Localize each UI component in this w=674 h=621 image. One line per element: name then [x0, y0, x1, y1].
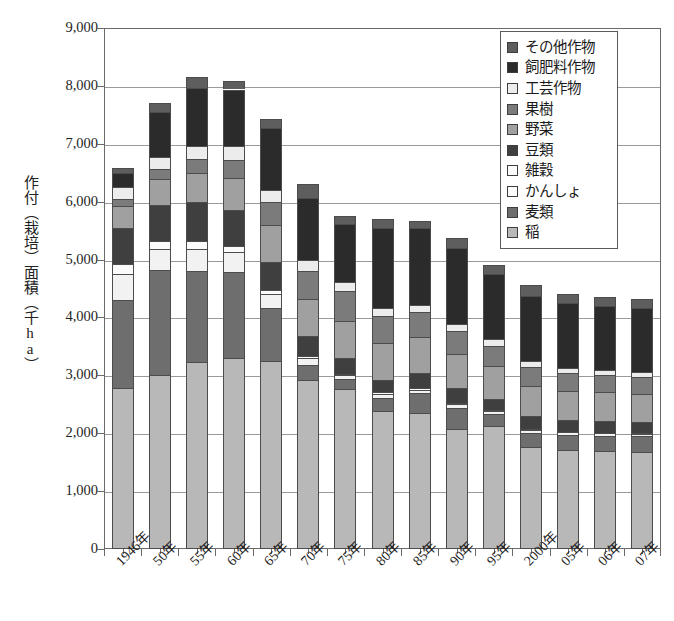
- legend-item: 稲: [507, 222, 613, 243]
- bar-segment-工芸作物: [446, 324, 468, 332]
- legend-swatch-icon: [507, 104, 518, 115]
- bar-segment-その他作物: [557, 294, 579, 303]
- bar-segment-豆類: [149, 205, 171, 240]
- y-axis-tick-label: 4,000: [36, 309, 98, 324]
- bar-segment-果樹: [297, 271, 319, 300]
- bar-segment-その他作物: [409, 221, 431, 227]
- bar-segment-飼肥料作物: [446, 248, 468, 323]
- bar-segment-麦類: [409, 393, 431, 413]
- bar-segment-雑穀: [297, 356, 319, 358]
- bar-segment-果樹: [334, 291, 356, 320]
- legend-swatch-icon: [507, 42, 518, 53]
- bar-segment-麦類: [631, 436, 653, 452]
- y-axis-tick-mark: [97, 375, 104, 376]
- y-axis-tick-label: 0: [36, 541, 98, 556]
- bar-segment-飼肥料作物: [149, 112, 171, 157]
- bar-segment-野菜: [186, 173, 208, 203]
- bar-segment-その他作物: [297, 184, 319, 198]
- bar-95年: [483, 265, 505, 549]
- legend-item-label: 果樹: [525, 102, 553, 117]
- bar-segment-飼肥料作物: [557, 303, 579, 368]
- bar-segment-工芸作物: [520, 361, 542, 367]
- bar-segment-その他作物: [446, 238, 468, 248]
- bar-80年: [372, 219, 394, 549]
- bar-segment-飼肥料作物: [186, 88, 208, 146]
- legend-swatch-icon: [507, 83, 518, 94]
- bar-segment-麦類: [112, 300, 134, 389]
- legend-swatch-icon: [507, 145, 518, 156]
- bar-segment-麦類: [149, 270, 171, 374]
- bar-segment-その他作物: [223, 81, 245, 89]
- bar-1946年: [112, 168, 134, 549]
- bar-segment-かんしょ: [446, 404, 468, 408]
- bar-05年: [557, 294, 579, 549]
- bar-segment-飼肥料作物: [631, 308, 653, 372]
- bar-segment-雑穀: [409, 388, 431, 389]
- bar-segment-豆類: [446, 388, 468, 404]
- bar-segment-麦類: [334, 379, 356, 389]
- bar-segment-工芸作物: [409, 305, 431, 313]
- bar-segment-工芸作物: [483, 339, 505, 346]
- y-axis-tick-mark: [97, 28, 104, 29]
- y-axis-tick-mark: [97, 433, 104, 434]
- x-axis-tick-labels: 1946年50年55年60年65年70年75年80年85年90年95年2000年…: [104, 558, 674, 620]
- bar-segment-豆類: [557, 420, 579, 432]
- bar-segment-麦類: [297, 365, 319, 379]
- bar-segment-工芸作物: [631, 372, 653, 377]
- bar-segment-工芸作物: [557, 368, 579, 373]
- legend-item: かんしょ: [507, 181, 613, 202]
- legend-item: 飼肥料作物: [507, 58, 613, 79]
- bar-segment-果樹: [149, 169, 171, 179]
- bar-segment-稲: [186, 362, 208, 549]
- y-axis-tick-label: 1,000: [36, 483, 98, 498]
- bar-segment-稲: [483, 426, 505, 549]
- legend-item-label: 野菜: [525, 122, 553, 137]
- legend-item: 豆類: [507, 140, 613, 161]
- bar-segment-野菜: [520, 386, 542, 417]
- bar-segment-果樹: [112, 199, 134, 206]
- bar-segment-かんしょ: [409, 390, 431, 394]
- bar-segment-豆類: [520, 416, 542, 429]
- bar-segment-かんしょ: [260, 294, 282, 308]
- bar-segment-果樹: [631, 377, 653, 394]
- bar-2000年: [520, 285, 542, 549]
- legend-swatch-icon: [507, 227, 518, 238]
- chart-legend: その他作物飼肥料作物工芸作物果樹野菜豆類雑穀かんしょ麦類稲: [500, 31, 618, 249]
- legend-swatch-icon: [507, 124, 518, 135]
- bar-segment-野菜: [149, 179, 171, 205]
- bar-segment-野菜: [409, 337, 431, 373]
- bar-segment-豆類: [260, 262, 282, 291]
- bar-segment-その他作物: [483, 265, 505, 274]
- bar-segment-麦類: [223, 272, 245, 358]
- bar-segment-かんしょ: [631, 434, 653, 436]
- legend-item-label: 稲: [525, 225, 539, 240]
- bar-segment-その他作物: [631, 299, 653, 307]
- bar-segment-飼肥料作物: [409, 228, 431, 305]
- bar-segment-工芸作物: [334, 282, 356, 291]
- legend-item-label: 工芸作物: [525, 81, 581, 96]
- bar-segment-稲: [372, 411, 394, 549]
- bar-segment-豆類: [409, 373, 431, 389]
- legend-swatch-icon: [507, 207, 518, 218]
- y-axis-tick-mark: [97, 86, 104, 87]
- bar-segment-稲: [594, 451, 616, 549]
- y-axis-tick-mark: [97, 317, 104, 318]
- bar-segment-工芸作物: [149, 157, 171, 169]
- stacked-bar-chart: 作付（栽培）面積（千ha） 01,0002,0003,0004,0005,000…: [0, 0, 674, 621]
- bar-segment-稲: [297, 380, 319, 549]
- bar-segment-飼肥料作物: [594, 306, 616, 370]
- bar-segment-雑穀: [372, 392, 394, 393]
- bar-90年: [446, 238, 468, 549]
- bar-segment-かんしょ: [483, 411, 505, 414]
- bar-segment-その他作物: [594, 297, 616, 305]
- bar-segment-果樹: [409, 312, 431, 336]
- y-axis-tick-label: 2,000: [36, 425, 98, 440]
- bar-segment-野菜: [631, 394, 653, 422]
- bar-segment-稲: [446, 429, 468, 549]
- bar-segment-飼肥料作物: [372, 228, 394, 308]
- y-axis-tick-mark: [97, 491, 104, 492]
- bar-60年: [223, 81, 245, 549]
- bar-segment-豆類: [334, 358, 356, 374]
- bar-segment-かんしょ: [557, 432, 579, 434]
- bar-segment-稲: [149, 375, 171, 549]
